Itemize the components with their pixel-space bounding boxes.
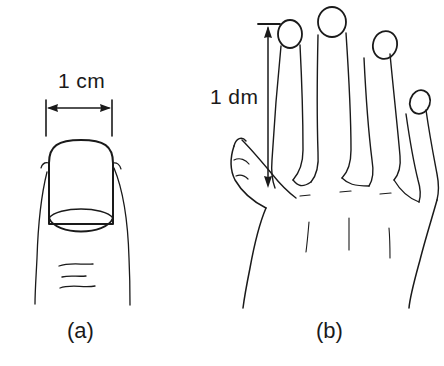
fingernail-bed-curve <box>49 209 113 218</box>
index-fingernail <box>278 20 302 48</box>
thumbnail <box>234 159 249 164</box>
arrowhead-up-icon <box>264 26 272 38</box>
ring-finger-outline-right <box>390 54 400 180</box>
thumb-outline-upper <box>242 140 296 198</box>
middle-finger-outline-right <box>342 33 351 178</box>
cuticle-left <box>41 163 49 168</box>
middle-fingernail <box>318 7 346 37</box>
thumb-crease <box>236 175 248 179</box>
middle-finger-outline-left <box>311 35 318 182</box>
ring-fingernail <box>370 29 400 62</box>
finger-outline-right <box>114 168 130 305</box>
panel-caption-b: (b) <box>316 320 343 342</box>
finger-crease-1 <box>59 264 93 266</box>
dimension-label-1dm: 1 dm <box>210 86 258 107</box>
knuckle-mark-2 <box>340 191 351 192</box>
knuckle-mark-3 <box>380 193 391 194</box>
arrowhead-left-icon <box>47 104 58 112</box>
hand-outline-right <box>409 200 437 308</box>
pinky-finger-outline-left <box>406 114 420 202</box>
dimension-label-1cm: 1 cm <box>58 70 105 91</box>
web-middle-ring <box>342 178 369 186</box>
panel-caption-a: (a) <box>67 320 94 342</box>
hand-outline-left <box>243 208 266 308</box>
arrowhead-down-icon <box>264 176 272 188</box>
finger-crease-2 <box>62 276 86 277</box>
index-finger-outline-right <box>293 45 303 180</box>
pinky-finger-outline-right <box>426 110 439 200</box>
panel-b-drawing <box>231 7 438 308</box>
index-finger-outline-left <box>272 46 281 188</box>
finger-crease-3 <box>60 286 95 288</box>
tendon-line-3 <box>389 228 390 258</box>
finger-outline-left <box>35 172 47 304</box>
pinky-fingernail <box>407 87 433 116</box>
panel-a-drawing <box>35 100 130 305</box>
figure-artwork <box>0 0 444 366</box>
arrowhead-right-icon <box>100 104 111 112</box>
tendon-line-1 <box>306 222 309 252</box>
ring-finger-outline-left <box>364 58 373 186</box>
figure-container: 1 cm 1 dm (a) (b) <box>0 0 444 366</box>
thumb-outline-lower <box>231 146 266 208</box>
web-ring-pinky <box>394 180 419 202</box>
knuckle-mark-1 <box>300 195 310 196</box>
web-index-middle <box>293 180 311 186</box>
